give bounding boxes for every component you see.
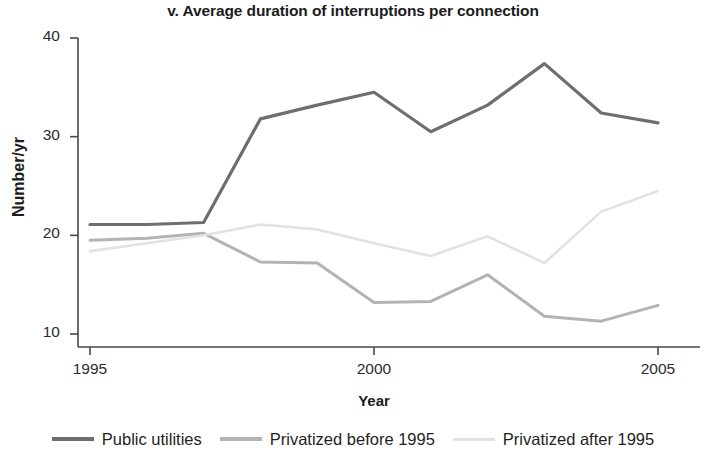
- legend-line-icon: [220, 437, 262, 441]
- x-tick-label: 2000: [339, 360, 409, 378]
- legend-line-icon: [52, 437, 94, 441]
- plot-area: [0, 0, 706, 454]
- y-tick-label: 20: [14, 224, 60, 242]
- y-tick-label: 40: [14, 27, 60, 45]
- series-line-2: [90, 191, 658, 263]
- y-tick-label: 30: [14, 126, 60, 144]
- legend-item: Public utilities: [52, 430, 202, 449]
- series-lines: [90, 64, 658, 322]
- legend-label: Privatized before 1995: [270, 430, 435, 449]
- chart-figure: v. Average duration of interruptions per…: [0, 0, 706, 454]
- x-tick-label: 2005: [623, 360, 693, 378]
- axis-lines: [78, 38, 700, 347]
- y-tick-label: 10: [14, 323, 60, 341]
- legend-label: Public utilities: [102, 430, 202, 449]
- legend-item: Privatized before 1995: [220, 430, 435, 449]
- legend-item: Privatized after 1995: [453, 430, 654, 449]
- series-line-0: [90, 64, 658, 225]
- x-tick-label: 1995: [55, 360, 125, 378]
- legend-label: Privatized after 1995: [503, 430, 654, 449]
- chart-legend: Public utilitiesPrivatized before 1995Pr…: [0, 424, 706, 454]
- legend-line-icon: [453, 438, 495, 441]
- series-line-1: [90, 233, 658, 321]
